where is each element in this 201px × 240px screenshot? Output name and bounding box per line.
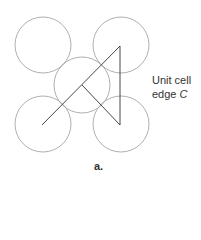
label-variable: C <box>180 88 188 100</box>
unit-cell-label: Unit cell edge C <box>152 73 191 101</box>
half-diagonal-line <box>82 85 120 125</box>
atom-bottom-right <box>93 96 149 152</box>
label-line-2: edge C <box>152 87 191 101</box>
figure-caption: a. <box>94 160 103 172</box>
label-edge-text: edge <box>152 88 180 100</box>
label-line-1: Unit cell <box>152 73 191 87</box>
